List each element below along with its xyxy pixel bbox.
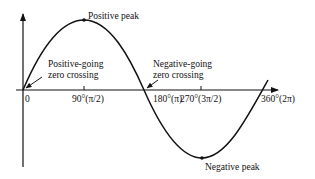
tick-label-270: 270°(3π/2) — [180, 94, 221, 105]
negative-going-arrow — [147, 80, 158, 88]
negative-going-label-line2: zero crossing — [153, 70, 204, 80]
positive-going-label-line2: zero crossing — [48, 70, 99, 80]
negative-going-label-line1: Negative-going — [153, 59, 212, 69]
tick-label-180: 180°(π) — [153, 94, 182, 105]
tick-label-360: 360°(2π) — [261, 94, 295, 105]
negative-peak-label: Negative peak — [205, 162, 260, 172]
positive-peak-dot — [82, 18, 86, 22]
positive-going-label-line1: Positive-going — [48, 59, 104, 69]
negative-peak-dot — [200, 156, 204, 160]
sine-wave-diagram: Positive peak Positive-going zero crossi… — [0, 0, 315, 179]
tick-label-90: 90°(π/2) — [72, 94, 104, 105]
sine-curve — [23, 20, 268, 158]
tick-label-0: 0 — [25, 94, 30, 104]
positive-peak-label: Positive peak — [88, 11, 139, 21]
